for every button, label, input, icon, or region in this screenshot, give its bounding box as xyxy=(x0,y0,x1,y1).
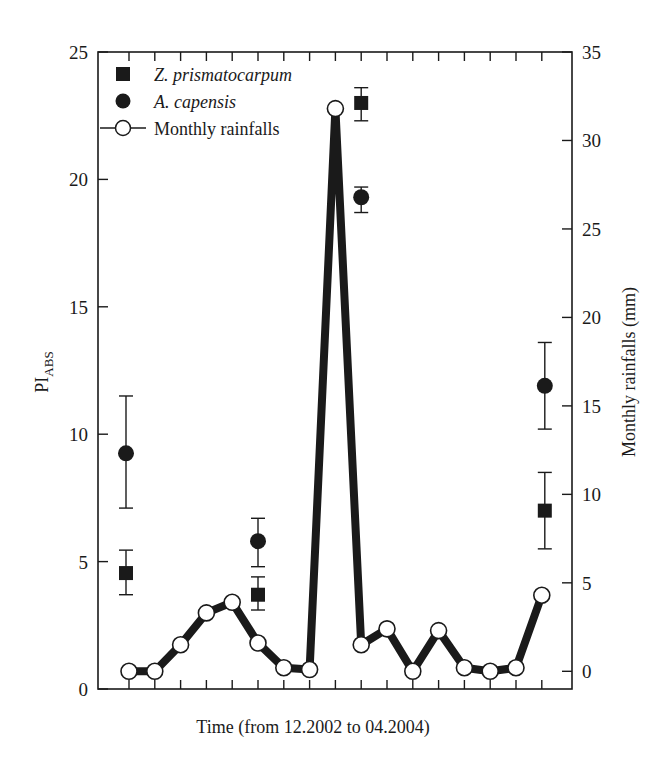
rainfall-point xyxy=(327,101,343,117)
rainfall-point xyxy=(250,635,266,651)
y-tick-label-left: 15 xyxy=(69,297,88,318)
y-tick-label-right: 25 xyxy=(582,219,601,240)
rainfall-point xyxy=(431,623,447,639)
y-tick-label-left: 10 xyxy=(69,424,88,445)
y2-axis-title: Monthly rainfalls (mm) xyxy=(619,287,640,457)
a-capensis-point xyxy=(353,189,369,205)
y-axis-title: PIABS xyxy=(32,351,56,392)
rainfall-line xyxy=(129,109,542,672)
dual-axis-chart: 051015202505101520253035 Z. prismatocarp… xyxy=(0,0,670,761)
legend-label-z-prismatocarpum: Z. prismatocarpum xyxy=(154,65,292,85)
y-tick-label-right: 35 xyxy=(582,42,601,63)
y-tick-label-right: 10 xyxy=(582,484,601,505)
rainfall-point xyxy=(353,637,369,653)
legend-open-circle-icon xyxy=(116,121,131,136)
rainfall-point xyxy=(379,621,395,637)
legend-filled-circle-icon xyxy=(116,94,131,109)
z-prismatocarpum-point xyxy=(538,504,552,518)
rainfall-point xyxy=(198,605,214,621)
legend-label-a-capensis: A. capensis xyxy=(153,92,236,112)
a-capensis-point xyxy=(537,378,553,394)
legend: Z. prismatocarpum A. capensis Monthly ra… xyxy=(100,65,292,139)
y-tick-label-left: 0 xyxy=(79,679,89,700)
rainfall-series xyxy=(121,101,550,680)
y-tick-label-left: 5 xyxy=(79,552,89,573)
rainfall-point xyxy=(147,663,163,679)
y-tick-label-right: 0 xyxy=(582,661,592,682)
rainfall-point xyxy=(456,660,472,676)
y-tick-label-right: 5 xyxy=(582,573,592,594)
y-tick-label-right: 30 xyxy=(582,130,601,151)
y-tick-label-left: 25 xyxy=(69,42,88,63)
rainfall-point xyxy=(508,660,524,676)
x-axis-title: Time (from 12.2002 to 04.2004) xyxy=(196,717,429,738)
y-axis-title-main: PI xyxy=(32,377,52,393)
legend-label-monthly-rainfalls: Monthly rainfalls xyxy=(154,119,279,139)
z-prismatocarpum-point xyxy=(354,96,368,110)
rainfall-point xyxy=(482,663,498,679)
rainfall-point xyxy=(302,662,318,678)
z-prismatocarpum-point xyxy=(251,588,265,602)
y-tick-label-right: 15 xyxy=(582,396,601,417)
z-prismatocarpum-point xyxy=(119,566,133,580)
y-axis-title-subscript: ABS xyxy=(41,351,56,376)
y-tick-label-left: 20 xyxy=(69,169,88,190)
y-tick-label-right: 20 xyxy=(582,307,601,328)
rainfall-point xyxy=(276,660,292,676)
rainfall-point xyxy=(405,663,421,679)
rainfall-point xyxy=(121,663,137,679)
a-capensis-point xyxy=(250,533,266,549)
rainfall-point xyxy=(534,587,550,603)
a-capensis-point xyxy=(118,445,134,461)
legend-square-icon xyxy=(116,67,130,81)
rainfall-point xyxy=(224,594,240,610)
rainfall-point xyxy=(173,637,189,653)
chart-container: 051015202505101520253035 Z. prismatocarp… xyxy=(0,0,670,761)
